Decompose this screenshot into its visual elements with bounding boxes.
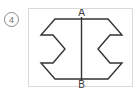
geometry-diagram: A B: [29, 9, 134, 88]
vertex-label-b: B: [78, 79, 85, 88]
right-half-outline: [82, 19, 122, 79]
figure-panel: A B: [28, 8, 133, 87]
left-half-outline: [41, 19, 81, 79]
figure-container: 4 A B: [0, 0, 138, 91]
item-number-badge: 4: [4, 12, 19, 27]
vertex-label-a: A: [78, 9, 85, 18]
